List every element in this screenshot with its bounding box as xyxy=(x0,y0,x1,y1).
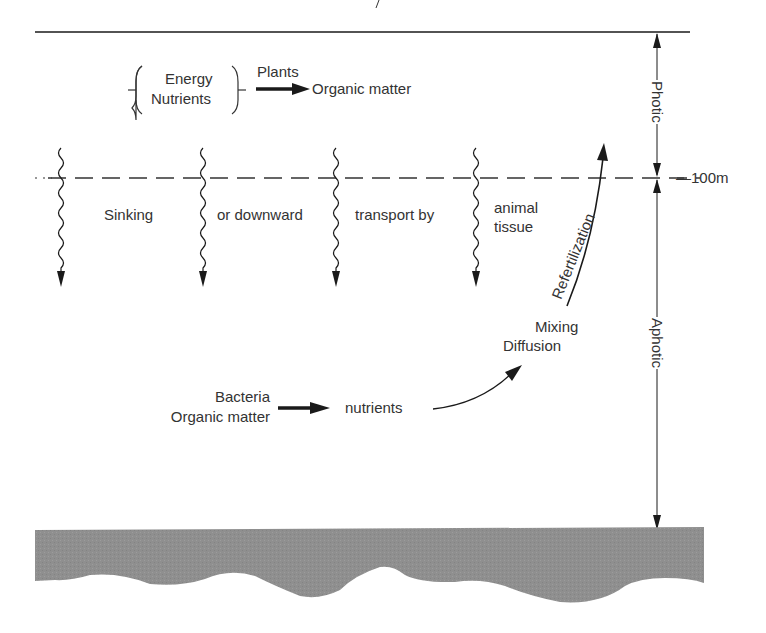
mixing-label: Mixing xyxy=(535,318,578,336)
seafloor xyxy=(35,527,704,602)
arrow-up-icon xyxy=(597,143,608,161)
depth-100m-label: —100m xyxy=(676,169,729,187)
arrow-down-icon xyxy=(332,271,340,287)
sinking-label: Sinking xyxy=(104,206,153,224)
nutrients-label: Nutrients xyxy=(151,90,211,108)
aphotic-zone-label: Aphotic xyxy=(649,317,666,369)
organic-matter-input-label: Organic matter xyxy=(150,408,270,426)
animal-label: animal xyxy=(494,199,538,217)
arrow-down-icon xyxy=(199,271,207,287)
diffusion-label: Diffusion xyxy=(503,337,561,355)
wavy-arrow-3 xyxy=(334,148,339,274)
arrow-down-icon xyxy=(472,271,480,287)
nutrients-output-label: nutrients xyxy=(345,399,403,417)
energy-label: Energy xyxy=(165,70,213,88)
wavy-arrow-1 xyxy=(59,148,64,274)
arrow-up-icon xyxy=(653,179,661,193)
right-brace xyxy=(232,66,238,114)
bacteria-label: Bacteria xyxy=(180,388,270,406)
wavy-arrow-4 xyxy=(474,148,479,274)
nutrients-mixing-arrow xyxy=(433,365,522,409)
downward-label: or downward xyxy=(217,206,303,224)
arrow-up-icon xyxy=(653,33,661,48)
wavy-arrow-2 xyxy=(201,148,206,274)
photic-zone-label: Photic xyxy=(649,80,666,124)
arrow-down-icon xyxy=(653,163,661,177)
tissue-label: tissue xyxy=(494,218,533,236)
top-mark xyxy=(376,0,379,8)
arrow-down-icon xyxy=(57,271,65,287)
transport-label: transport by xyxy=(355,206,434,224)
organic-matter-output-label: Organic matter xyxy=(312,80,411,98)
plants-label: Plants xyxy=(257,63,299,81)
bacteria-arrow xyxy=(278,402,330,414)
plants-arrow xyxy=(256,83,310,95)
